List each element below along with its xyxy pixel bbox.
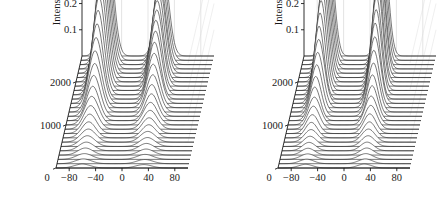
panel-left: 0.10.20.30.4Intensity (W)10002000−80−400… [0,0,222,200]
waterfall-figure: 0.10.20.30.4Intensity (W)10002000−80−400… [0,0,444,200]
y-axis-title: Intensity (W) [51,0,63,25]
y-tick-label: 0.2 [64,0,77,9]
z-tick-mark [53,168,56,169]
trace-line [56,164,188,168]
panel-right-plot: 0.10.20.30.4Intensity (W)10002000−80−400… [222,0,444,200]
y-tick-label: 0.1 [286,24,299,35]
x-tick-label: −40 [309,172,325,183]
z-origin-label: 0 [44,172,49,183]
trace-line [278,164,410,168]
trace-group [278,0,436,168]
x-tick-label: 40 [365,172,376,183]
y-axis-title: Intensity (W) [273,0,285,25]
z-tick-label: 1000 [262,120,283,131]
x-tick-label: 80 [392,172,403,183]
z-origin-label: 0 [266,172,271,183]
y-tick-label: 0.1 [64,24,77,35]
panel-left-plot: 0.10.20.30.4Intensity (W)10002000−80−400… [0,0,222,200]
z-tick-label: 1000 [40,120,61,131]
x-tick-label: 0 [119,172,124,183]
trace-group [56,0,214,168]
x-tick-label: −80 [61,172,77,183]
x-tick-label: −80 [283,172,299,183]
x-tick-label: 0 [341,172,346,183]
x-tick-label: 40 [143,172,154,183]
x-tick-label: −40 [87,172,103,183]
z-tick-mark [275,168,278,169]
y-tick-label: 0.2 [286,0,299,9]
z-tick-label: 2000 [50,77,71,88]
z-tick-label: 2000 [272,77,293,88]
panel-right: 0.10.20.30.4Intensity (W)10002000−80−400… [222,0,444,200]
x-tick-label: 80 [170,172,181,183]
